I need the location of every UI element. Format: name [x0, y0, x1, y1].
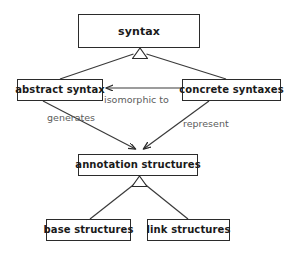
node-link-structures[interactable]: link structures	[147, 219, 230, 241]
node-link-structures-label: link structures	[147, 225, 231, 235]
node-syntax[interactable]: syntax	[78, 14, 200, 48]
node-abstract-syntax-label: abstract syntax	[15, 85, 105, 95]
edge-label-represent: represent	[183, 119, 229, 129]
edge-generates	[43, 101, 136, 149]
node-base-structures[interactable]: base structures	[46, 219, 131, 241]
hollow-triangle-icon	[132, 176, 147, 187]
edge-generalization-to-annotation-structures	[90, 176, 188, 219]
edge-label-generates: generates	[47, 113, 95, 123]
node-annotation-structures-label: annotation structures	[75, 160, 200, 170]
edge-label-isomorphic-to: isomorphic to	[104, 95, 169, 105]
node-abstract-syntax[interactable]: abstract syntax	[17, 79, 103, 101]
node-syntax-label: syntax	[118, 26, 160, 37]
node-concrete-syntaxes[interactable]: concrete syntaxes	[182, 79, 281, 101]
hollow-triangle-icon	[133, 48, 148, 59]
edge-generalization-to-syntax	[60, 48, 226, 79]
node-base-structures-label: base structures	[44, 225, 134, 235]
node-annotation-structures[interactable]: annotation structures	[78, 154, 198, 176]
uml-class-diagram: syntax abstract syntax concrete syntaxes…	[0, 0, 291, 255]
node-concrete-syntaxes-label: concrete syntaxes	[179, 85, 284, 95]
